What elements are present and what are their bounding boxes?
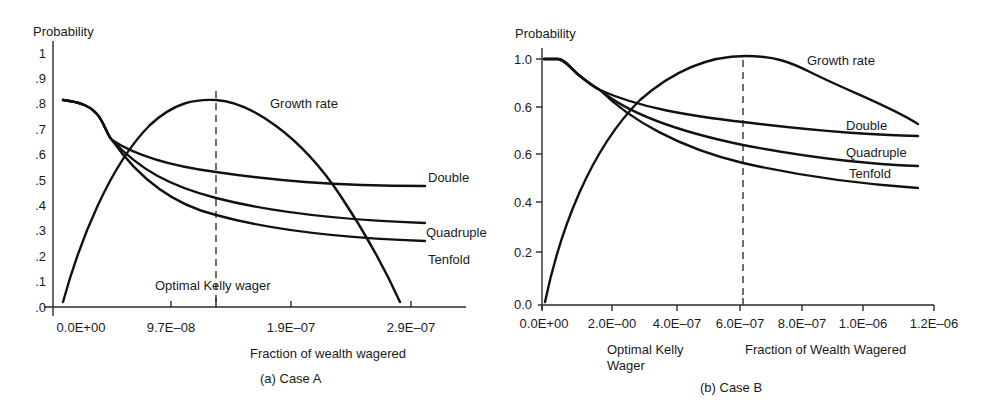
y-tick: .4 xyxy=(35,198,46,213)
quadruple-label-a: Quadruple xyxy=(426,225,487,240)
chart-case-a: Probability .0 .1 .2 .3 .4 .5 .6 .7 .8 .… xyxy=(33,24,487,386)
y-tick: 0.2 xyxy=(514,245,532,260)
y-tick: .3 xyxy=(35,223,46,238)
y-axis-label-a: Probability xyxy=(33,24,94,39)
x-axis-label-b: Fraction of Wealth Wagered xyxy=(745,342,906,357)
x-tick-labels-b: 0.0E+00 2.0E–00 4.0E–07 6.0E–07 8.0E–07 … xyxy=(520,316,959,331)
y-tick: .2 xyxy=(35,249,46,264)
optimal-kelly-label-b-line1: Optimal Kelly xyxy=(607,342,684,357)
y-tick: 1 xyxy=(39,46,46,61)
x-tick: 8.0E–07 xyxy=(778,316,826,331)
x-tick-labels-a: 0.0E+00 9.7E–08 1.9E–07 2.9E–07 xyxy=(57,320,436,335)
x-ticks-a xyxy=(171,298,411,307)
double-label-b: Double xyxy=(846,118,887,133)
x-tick: 0.0E+00 xyxy=(57,320,106,335)
quadruple-label-b: Quadruple xyxy=(846,145,907,160)
y-tick: .5 xyxy=(35,173,46,188)
y-tick: 0.4 xyxy=(514,195,532,210)
y-axis-label-b: Probability xyxy=(515,26,576,41)
y-tick: .8 xyxy=(35,96,46,111)
x-tick: 1.9E–07 xyxy=(267,320,315,335)
curve-double-a xyxy=(63,100,425,186)
chart-case-b: Probability 1.0 0.6 0.6 0.4 0.2 0.0 xyxy=(514,26,958,395)
optimal-kelly-label-b-line2: Wager xyxy=(607,358,645,373)
x-tick: 9.7E–08 xyxy=(147,320,195,335)
y-tick-labels-b: 1.0 0.6 0.6 0.4 0.2 0.0 xyxy=(514,52,532,312)
growth-rate-label-a: Growth rate xyxy=(270,96,338,111)
x-tick: 2.9E–07 xyxy=(387,320,435,335)
tenfold-label-a: Tenfold xyxy=(428,252,470,267)
y-tick: 1.0 xyxy=(514,52,532,67)
x-tick: 4.0E–07 xyxy=(653,316,701,331)
y-tick: .6 xyxy=(35,147,46,162)
x-tick: 6.0E–07 xyxy=(716,316,764,331)
y-tick: .9 xyxy=(35,71,46,86)
x-tick: 1.0E–06 xyxy=(839,316,887,331)
figure: Probability .0 .1 .2 .3 .4 .5 .6 .7 .8 .… xyxy=(0,0,984,412)
optimal-kelly-label-a: Optimal Kelly wager xyxy=(155,278,271,293)
tenfold-label-b: Tenfold xyxy=(849,166,891,181)
y-tick: .7 xyxy=(35,122,46,137)
double-label-a: Double xyxy=(428,170,469,185)
x-tick: 1.2E–06 xyxy=(910,316,958,331)
y-ticks-b xyxy=(536,59,542,252)
y-tick-labels-a: .0 .1 .2 .3 .4 .5 .6 .7 .8 .9 1 xyxy=(35,46,46,315)
x-tick: 2.0E–00 xyxy=(588,316,636,331)
y-tick: 0.0 xyxy=(514,297,532,312)
y-tick: .1 xyxy=(35,274,46,289)
caption-b: (b) Case B xyxy=(700,380,762,395)
y-tick: .0 xyxy=(35,300,46,315)
growth-rate-label-b: Growth rate xyxy=(807,53,875,68)
x-tick: 0.0E+00 xyxy=(520,316,569,331)
y-tick: 0.6 xyxy=(514,100,532,115)
x-axis-label-a: Fraction of wealth wagered xyxy=(250,346,406,361)
curve-quadruple-a xyxy=(63,100,425,223)
caption-a: (a) Case A xyxy=(260,371,322,386)
y-tick: 0.6 xyxy=(514,147,532,162)
